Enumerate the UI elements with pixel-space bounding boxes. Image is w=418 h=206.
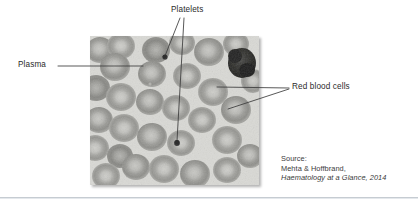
label-red-blood-cells: Red blood cells (292, 82, 350, 92)
source-line-label: Source: (281, 154, 386, 164)
source-line-title: Haematology at a Glance, 2014 (281, 173, 386, 183)
label-platelets: Platelets (171, 5, 203, 15)
blood-smear-micrograph (90, 36, 259, 185)
micrograph-canvas (90, 36, 259, 185)
source-line-authors: Mehta & Hoffbrand, (281, 164, 386, 174)
figure-slide: Platelets Plasma Red blood cells Source:… (0, 0, 418, 206)
bottom-divider-highlight (0, 198, 418, 199)
label-plasma: Plasma (18, 60, 46, 70)
source-citation: Source: Mehta & Hoffbrand, Haematology a… (281, 154, 386, 183)
film-grain (90, 36, 259, 185)
